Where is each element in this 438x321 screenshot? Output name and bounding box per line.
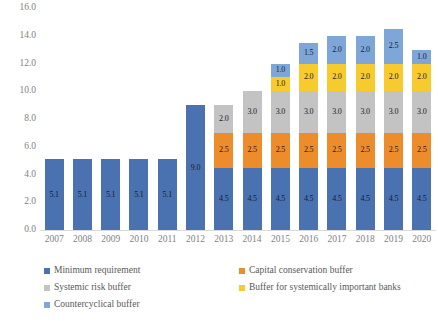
bar-segment[interactable]: 4.5 [412, 168, 431, 230]
bar-stack: 4.52.53.02.01.0 [412, 50, 431, 230]
bar-segment[interactable]: 2.5 [356, 133, 375, 168]
legend-item[interactable]: Buffer for systemically important banks [239, 279, 434, 296]
bar-segment[interactable]: 5.1 [101, 159, 120, 230]
bar-segment[interactable]: 3.0 [384, 91, 403, 133]
bar-segment-label: 1.0 [271, 66, 290, 74]
bar-column[interactable]: 4.52.53.02.02.0 [324, 8, 350, 230]
legend-item[interactable]: Systemic risk buffer [44, 279, 239, 296]
bar-column[interactable]: 5.1 [154, 8, 180, 230]
bar-segment-label: 2.0 [384, 73, 403, 81]
y-axis-tick: 6.0 [2, 142, 36, 152]
bar-segment-label: 3.0 [356, 108, 375, 116]
bar-segment[interactable]: 4.5 [243, 168, 262, 230]
bar-segment-label: 2.5 [214, 146, 233, 154]
bar-segment[interactable]: 2.0 [214, 105, 233, 133]
bar-column[interactable]: 4.52.53.02.02.0 [352, 8, 378, 230]
bar-segment[interactable]: 5.1 [129, 159, 148, 230]
x-axis-tick: 2018 [352, 232, 378, 246]
bar-column[interactable]: 4.52.53.02.01.5 [296, 8, 322, 230]
y-axis-tick: 12.0 [2, 59, 36, 69]
bar-segment[interactable]: 4.5 [327, 168, 346, 230]
x-axis-tick: 2015 [268, 232, 294, 246]
bar-segment[interactable]: 2.0 [412, 64, 431, 92]
plot-area: 5.15.15.15.15.19.04.52.52.04.52.53.04.52… [40, 8, 436, 230]
bar-stack: 5.1 [73, 159, 92, 230]
bar-segment[interactable]: 3.0 [327, 91, 346, 133]
legend-label: Buffer for systemically important banks [249, 283, 401, 293]
y-axis-tick: 4.0 [2, 170, 36, 180]
bar-segment[interactable]: 5.1 [158, 159, 177, 230]
bar-segment[interactable]: 2.0 [356, 36, 375, 64]
bar-segment[interactable]: 2.5 [299, 133, 318, 168]
bar-segment[interactable]: 1.0 [412, 50, 431, 64]
bar-segment[interactable]: 5.1 [73, 159, 92, 230]
bar-segment-label: 4.5 [327, 195, 346, 203]
bar-stack: 4.52.53.02.02.0 [327, 36, 346, 230]
bar-segment-label: 5.1 [101, 191, 120, 199]
bar-segment[interactable]: 2.5 [214, 133, 233, 168]
x-axis-tick: 2012 [183, 232, 209, 246]
legend-label: Countercyclical buffer [54, 300, 140, 310]
bar-segment[interactable]: 9.0 [186, 105, 205, 230]
bar-segment[interactable]: 4.5 [299, 168, 318, 230]
bar-segment-label: 9.0 [186, 164, 205, 172]
bar-segment-label: 4.5 [243, 195, 262, 203]
x-axis: 2007200820092010201120122013201420152016… [40, 232, 436, 250]
bar-segment[interactable]: 4.5 [214, 168, 233, 230]
bar-segment-label: 4.5 [271, 195, 290, 203]
bar-column[interactable]: 5.1 [126, 8, 152, 230]
bar-segment[interactable]: 2.5 [412, 133, 431, 168]
bar-segment[interactable]: 2.0 [356, 64, 375, 92]
bar-column[interactable]: 5.1 [70, 8, 96, 230]
chart-legend: Minimum requirementCapital conservation … [44, 262, 434, 318]
bar-segment[interactable]: 4.5 [271, 168, 290, 230]
bar-segment-label: 2.0 [356, 73, 375, 81]
bar-segment[interactable]: 2.5 [384, 133, 403, 168]
bar-segment[interactable]: 3.0 [243, 91, 262, 133]
bar-column[interactable]: 4.52.53.02.01.0 [409, 8, 435, 230]
bar-segment[interactable]: 3.0 [299, 91, 318, 133]
x-axis-tick: 2019 [381, 232, 407, 246]
bar-segment-label: 3.0 [412, 108, 431, 116]
x-axis-tick: 2014 [239, 232, 265, 246]
bar-stack: 5.1 [101, 159, 120, 230]
bar-column[interactable]: 4.52.52.0 [211, 8, 237, 230]
bar-segment[interactable]: 2.5 [384, 29, 403, 64]
bar-segment-label: 1.5 [299, 49, 318, 57]
legend-label: Systemic risk buffer [54, 283, 131, 293]
x-axis-tick: 2016 [296, 232, 322, 246]
legend-color-swatch [44, 268, 50, 274]
bar-column[interactable]: 4.52.53.01.01.0 [268, 8, 294, 230]
bar-segment[interactable]: 1.0 [271, 64, 290, 78]
bar-column[interactable]: 5.1 [41, 8, 67, 230]
bar-column[interactable]: 9.0 [183, 8, 209, 230]
bar-stack: 4.52.53.02.02.5 [384, 29, 403, 230]
bar-segment-label: 2.0 [327, 73, 346, 81]
legend-item[interactable]: Minimum requirement [44, 262, 239, 279]
bar-segment[interactable]: 3.0 [356, 91, 375, 133]
bar-segment-label: 2.0 [327, 46, 346, 54]
bar-column[interactable]: 5.1 [98, 8, 124, 230]
bar-segment[interactable]: 1.0 [271, 77, 290, 91]
bar-segment-label: 2.5 [356, 146, 375, 154]
bar-segment[interactable]: 2.5 [271, 133, 290, 168]
bar-segment[interactable]: 1.5 [299, 43, 318, 64]
bar-segment[interactable]: 2.0 [327, 64, 346, 92]
bar-segment[interactable]: 2.5 [327, 133, 346, 168]
bar-segment-label: 2.5 [327, 146, 346, 154]
bar-segment[interactable]: 3.0 [271, 91, 290, 133]
bar-segment[interactable]: 2.0 [384, 64, 403, 92]
legend-item[interactable]: Capital conservation buffer [239, 262, 434, 279]
legend-item[interactable]: Countercyclical buffer [44, 296, 239, 313]
bar-segment[interactable]: 4.5 [384, 168, 403, 230]
bar-segment[interactable]: 3.0 [412, 91, 431, 133]
bar-segment[interactable]: 2.0 [299, 64, 318, 92]
bar-column[interactable]: 4.52.53.02.02.5 [381, 8, 407, 230]
bar-segment[interactable]: 2.0 [327, 36, 346, 64]
bar-stack: 9.0 [186, 105, 205, 230]
bar-segment[interactable]: 4.5 [356, 168, 375, 230]
bar-segment[interactable]: 2.5 [243, 133, 262, 168]
bar-column[interactable]: 4.52.53.0 [239, 8, 265, 230]
bar-segment[interactable]: 5.1 [45, 159, 64, 230]
x-axis-tick: 2017 [324, 232, 350, 246]
